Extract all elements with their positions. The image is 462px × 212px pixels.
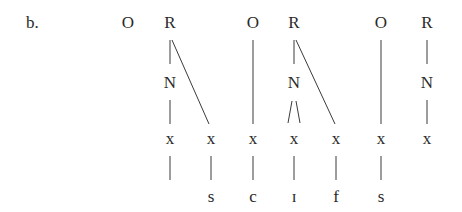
onset-node-2: O bbox=[247, 14, 259, 31]
segment-3: ɪ bbox=[292, 188, 297, 205]
segment-1: s bbox=[208, 188, 215, 205]
line-r2-x5 bbox=[296, 40, 335, 124]
nucleus-node-1: N bbox=[164, 74, 176, 91]
skeletal-slot-4: x bbox=[290, 130, 299, 147]
line-n2-x4-right bbox=[296, 101, 300, 123]
nucleus-node-2: N bbox=[288, 74, 300, 91]
skeletal-slot-1: x bbox=[166, 130, 175, 147]
segment-5: s bbox=[378, 188, 385, 205]
skeletal-slot-3: x bbox=[249, 130, 258, 147]
skeletal-slot-6: x bbox=[377, 130, 386, 147]
rhyme-node-3: R bbox=[421, 14, 432, 31]
rhyme-node-2: R bbox=[288, 14, 299, 31]
segment-2: c bbox=[249, 188, 257, 205]
skeletal-slot-5: x bbox=[332, 130, 341, 147]
line-r1-x2 bbox=[172, 40, 209, 124]
onset-node-3: O bbox=[375, 14, 387, 31]
segment-4: f bbox=[333, 188, 339, 205]
line-n2-x4-left bbox=[288, 101, 292, 123]
example-label: b. bbox=[26, 14, 39, 31]
rhyme-node-1: R bbox=[164, 14, 175, 31]
association-lines bbox=[0, 0, 462, 212]
onset-node-1: O bbox=[122, 14, 134, 31]
skeletal-slot-2: x bbox=[207, 130, 216, 147]
nucleus-node-3: N bbox=[421, 74, 433, 91]
skeletal-slot-7: x bbox=[423, 130, 432, 147]
